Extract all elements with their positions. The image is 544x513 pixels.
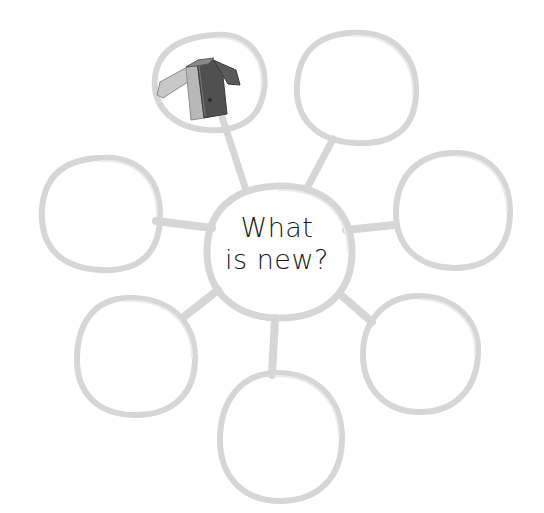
- bubble-bottom-left: [77, 298, 195, 415]
- bubble-bottom-right: [363, 296, 478, 412]
- connector-bottom-right: [342, 296, 372, 322]
- connector-right: [346, 225, 394, 230]
- bubble-top-right: [297, 33, 416, 143]
- jacket-drawing: [157, 58, 240, 120]
- connector-top-right: [306, 139, 333, 190]
- center-label: What is new?: [212, 212, 342, 276]
- connector-left: [156, 221, 212, 228]
- connector-bottom: [272, 318, 275, 375]
- center-label-line1: What: [212, 212, 342, 244]
- bubble-bottom: [220, 373, 342, 501]
- center-label-line2: is new?: [212, 244, 342, 276]
- connector-bottom-left: [185, 290, 218, 316]
